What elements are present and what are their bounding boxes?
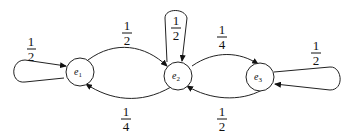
label-e3-e2: 1 2	[217, 104, 227, 134]
label-e3-e3: 1 2	[311, 38, 321, 68]
svg-text:4: 4	[123, 119, 130, 134]
svg-text:2: 2	[28, 49, 35, 64]
state-diagram: e1 e2 e3 1 2 1 2 1 2 1 4 1 4 1 2	[0, 0, 353, 135]
edge-e2-e3	[192, 55, 258, 67]
label-e2-e1: 1 4	[121, 104, 131, 134]
node-e2: e2	[164, 62, 192, 90]
label-e1-e1: 1 2	[27, 34, 36, 64]
svg-text:1: 1	[28, 34, 35, 49]
svg-text:1: 1	[173, 13, 180, 28]
edge-e3-e3	[274, 67, 340, 90]
svg-text:1: 1	[123, 104, 130, 119]
svg-text:2: 2	[124, 33, 131, 48]
svg-text:4: 4	[219, 37, 226, 52]
svg-text:1: 1	[219, 104, 226, 119]
edge-e1-e2	[88, 47, 167, 66]
svg-text:2: 2	[173, 28, 180, 43]
label-e2-e2: 1 2	[171, 13, 181, 43]
label-e1-e2: 1 2	[122, 18, 132, 48]
svg-text:1: 1	[124, 18, 131, 33]
node-e3: e3	[246, 63, 274, 91]
svg-text:1: 1	[219, 22, 226, 37]
edge-e2-e1	[86, 84, 171, 98]
edge-e1-e1	[14, 60, 66, 82]
svg-text:2: 2	[313, 53, 320, 68]
node-e1: e1	[66, 58, 94, 86]
label-e2-e3: 1 4	[217, 22, 227, 52]
svg-text:2: 2	[219, 119, 226, 134]
svg-text:1: 1	[313, 38, 320, 53]
